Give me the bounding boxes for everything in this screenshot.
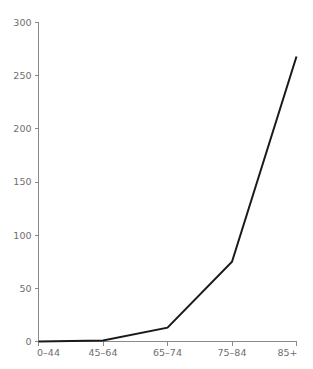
y-tick-label: 100 [13, 230, 31, 241]
line-chart: 050100150200250300 0–4445–6465–7475–8485… [0, 0, 313, 369]
x-axis: 0–4445–6465–7475–8485+ [37, 342, 297, 358]
x-tick-label: 0–44 [37, 347, 60, 358]
y-tick-label: 250 [13, 70, 31, 81]
y-tick-label: 150 [13, 176, 31, 187]
x-tick-label: 65–74 [153, 347, 182, 358]
y-tick-label: 50 [19, 283, 31, 294]
y-tick-label: 200 [13, 123, 31, 134]
y-tick-label: 300 [13, 17, 31, 28]
plot-area [39, 57, 297, 342]
x-tick-label: 75–84 [218, 347, 247, 358]
y-tick-label: 0 [25, 336, 31, 347]
chart-canvas: 050100150200250300 0–4445–6465–7475–8485… [0, 0, 313, 369]
y-axis: 050100150200250300 [13, 17, 38, 347]
x-tick-label: 85+ [277, 347, 297, 358]
x-tick-label: 45–64 [89, 347, 118, 358]
data-series-line [39, 57, 297, 342]
